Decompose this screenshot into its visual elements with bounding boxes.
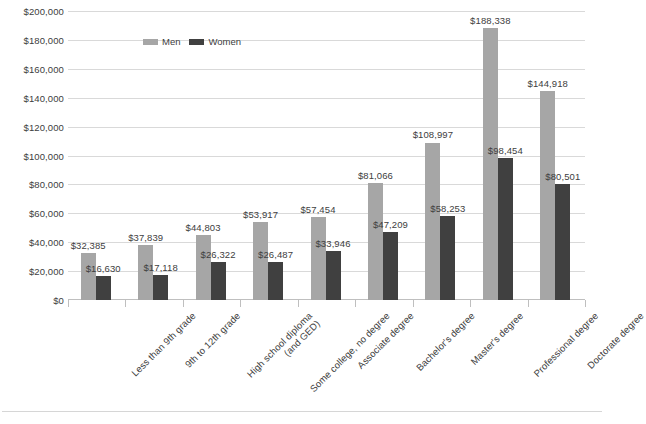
bar-value-label: $108,997 <box>413 129 453 140</box>
bar-women[interactable] <box>211 262 226 300</box>
bar-value-label: $98,454 <box>488 145 523 156</box>
x-axis-tick <box>240 300 241 307</box>
bar-group <box>368 11 398 300</box>
bar-men[interactable] <box>311 217 326 300</box>
x-axis-tick <box>298 300 299 307</box>
bar-women[interactable] <box>440 216 455 300</box>
x-axis-tick <box>470 300 471 307</box>
y-axis-tick-label: $160,000 <box>0 63 64 74</box>
x-axis-tick <box>183 300 184 307</box>
y-axis-tick-label: $120,000 <box>0 121 64 132</box>
bar-women[interactable] <box>555 184 570 300</box>
bar-value-label: $44,803 <box>186 222 221 233</box>
x-axis-tick <box>585 300 586 307</box>
bar-women[interactable] <box>153 275 168 300</box>
y-axis-tick-label: $0 <box>0 295 64 306</box>
x-axis-category-label: Bachelor's degree <box>414 310 477 373</box>
y-axis-tick-label: $140,000 <box>0 92 64 103</box>
bar-value-label: $26,487 <box>258 249 293 260</box>
x-axis-tick <box>413 300 414 307</box>
legend-label-men: Men <box>162 36 180 47</box>
bar-value-label: $188,338 <box>470 15 510 26</box>
bar-value-label: $57,454 <box>300 204 335 215</box>
bar-value-label: $37,839 <box>128 232 163 243</box>
legend-item-women: Women <box>189 36 241 47</box>
bar-group <box>138 11 168 300</box>
bar-group <box>81 11 111 300</box>
bar-group <box>425 11 455 300</box>
x-axis-category-label: Less than 9th grade <box>129 310 198 379</box>
footer-partial-text <box>4 414 304 424</box>
legend-swatch-women <box>189 39 204 45</box>
y-axis-tick-label: $200,000 <box>0 6 64 17</box>
x-axis-category-label: High school diploma(and GED) <box>244 310 321 387</box>
bar-value-label: $16,630 <box>86 263 121 274</box>
bar-men[interactable] <box>253 222 268 300</box>
page-divider <box>2 411 602 412</box>
bar-men[interactable] <box>196 235 211 300</box>
y-axis-tick-label: $60,000 <box>0 208 64 219</box>
bar-group <box>311 11 341 300</box>
bar-value-label: $80,501 <box>545 171 580 182</box>
bar-value-label: $32,385 <box>71 240 106 251</box>
bar-men[interactable] <box>81 253 96 300</box>
x-axis-tick <box>528 300 529 307</box>
bar-group <box>540 11 570 300</box>
y-axis-tick-label: $40,000 <box>0 237 64 248</box>
bar-men[interactable] <box>425 143 440 301</box>
bar-women[interactable] <box>498 158 513 300</box>
legend-item-men: Men <box>143 36 180 47</box>
bar-value-label: $26,322 <box>201 249 236 260</box>
bar-value-label: $53,917 <box>243 209 278 220</box>
x-axis-category-label: Master's degree <box>469 310 526 367</box>
x-axis-tick <box>125 300 126 307</box>
bar-women[interactable] <box>96 276 111 300</box>
y-axis-tick-label: $80,000 <box>0 179 64 190</box>
legend-swatch-men <box>143 39 158 45</box>
chart-legend: Men Women <box>143 36 241 47</box>
bar-value-label: $81,066 <box>358 170 393 181</box>
x-axis-tick <box>68 300 69 307</box>
bar-women[interactable] <box>383 232 398 300</box>
y-axis-tick-label: $100,000 <box>0 150 64 161</box>
bar-value-label: $144,918 <box>528 78 568 89</box>
bar-women[interactable] <box>268 262 283 300</box>
y-axis-tick-label: $180,000 <box>0 34 64 45</box>
x-axis-tick <box>355 300 356 307</box>
legend-label-women: Women <box>208 36 241 47</box>
bar-value-label: $33,946 <box>315 238 350 249</box>
y-axis-tick-label: $20,000 <box>0 266 64 277</box>
bar-men[interactable] <box>540 91 555 300</box>
bar-value-label: $47,209 <box>373 219 408 230</box>
bar-men[interactable] <box>483 28 498 300</box>
bar-women[interactable] <box>326 251 341 300</box>
bar-value-label: $17,118 <box>143 262 177 273</box>
bar-value-label: $58,253 <box>430 203 465 214</box>
bar-men[interactable] <box>368 183 383 300</box>
